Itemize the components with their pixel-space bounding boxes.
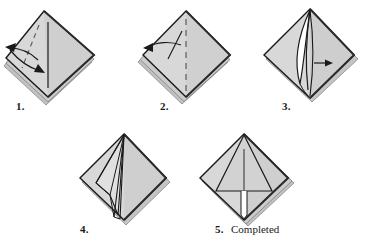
fold-step-1-label: 1. [16,100,25,112]
paper-shading-right [310,9,354,98]
paper-shading [44,11,94,97]
paper-shading [186,11,230,97]
fold-step-2-label: 2. [160,100,169,112]
fold-step-5: 5. Completed [186,123,310,246]
fold-step-5-label: 5. [215,223,224,235]
fold-step-5-caption: Completed [231,223,279,235]
fold-step-4: 4. [62,123,186,246]
origami-instruction-sheet: 1. 2. [0,0,372,246]
fold-step-3-label: 3. [282,100,291,112]
fold-step-2: 2. [124,0,248,123]
fold-step-4-label: 4. [80,223,89,235]
fold-step-2-figure [124,0,248,123]
bottom-point-tail [241,191,247,219]
paper-shading-right [124,134,166,220]
fold-step-1: 1. [0,0,124,123]
fold-step-3: 3. [248,0,372,123]
fold-step-3-figure [248,0,372,123]
